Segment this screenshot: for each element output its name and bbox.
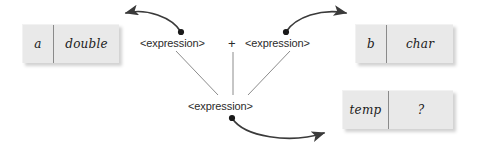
expression-label-left: <expression> <box>140 37 205 49</box>
variable-name-b: b <box>356 25 386 63</box>
result-arrow-source-dot <box>229 115 235 121</box>
variable-name-a: a <box>23 25 53 63</box>
expression-type-diagram: a double b char temp ? <expression> + <e… <box>0 0 479 152</box>
right-branch-line <box>248 51 290 95</box>
right-arrow-source-dot <box>283 29 289 35</box>
variable-type-b: char <box>387 25 453 63</box>
right-curved-arrow <box>286 12 346 32</box>
left-curved-arrow <box>126 12 181 32</box>
left-arrow-source-dot <box>178 29 184 35</box>
operator-label-plus: + <box>228 36 236 51</box>
connector-layer <box>0 0 479 152</box>
expression-label-right: <expression> <box>245 37 310 49</box>
variable-box-a: a double <box>22 24 119 63</box>
left-branch-line <box>176 51 218 95</box>
variable-box-temp: temp ? <box>342 90 453 129</box>
variable-type-temp: ? <box>389 91 453 129</box>
variable-box-b: b char <box>355 24 453 63</box>
result-curved-arrow <box>232 118 324 138</box>
expression-label-result: <expression> <box>188 100 253 112</box>
variable-type-a: double <box>54 25 119 63</box>
variable-name-temp: temp <box>343 91 388 129</box>
